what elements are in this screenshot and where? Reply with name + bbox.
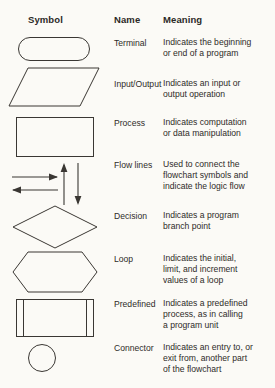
row-name-label: Decision: [114, 211, 162, 221]
symbol-cell-decision: [0, 203, 112, 249]
header-label-meaning: Meaning: [163, 14, 273, 25]
connector-circle-symbol-icon: [28, 344, 56, 372]
meaning-line: process, as in calling: [163, 309, 273, 320]
symbol-cell-process: [0, 113, 112, 161]
name-cell-loop: Loop: [114, 254, 162, 264]
symbol-cell-predefined: [0, 296, 112, 341]
row-name-label: Predefined: [114, 299, 162, 309]
symbol-cell-connector: [0, 341, 112, 386]
row-name-label: Loop: [114, 254, 162, 264]
meaning-line: Indicates an input or: [163, 78, 273, 89]
meaning-cell-loop: Indicates the initial, limit, and increm…: [163, 253, 273, 286]
symbol-cell-input-output: [0, 64, 112, 112]
name-cell-input-output: Input/Output: [114, 79, 162, 89]
row-name-label: Input/Output: [114, 79, 162, 89]
meaning-cell-connector: Indicates an entry to, or exit from, ano…: [163, 342, 273, 375]
name-cell-flow-lines: Flow lines: [114, 160, 162, 170]
meaning-line: Indicates a program: [163, 210, 273, 221]
predefined-process-symbol-icon: [16, 299, 94, 337]
header-cell-symbol: Symbol: [0, 14, 112, 30]
predefined-right-bar: [86, 300, 87, 336]
meaning-cell-decision: Indicates a program branch point: [163, 210, 273, 232]
meaning-cell-predefined: Indicates a predefined process, as in ca…: [163, 298, 273, 331]
row-name-label: Terminal: [114, 38, 162, 48]
meaning-line: exit from, another part: [163, 353, 273, 364]
table-row: Input/Output Indicates an input or outpu…: [0, 64, 275, 112]
table-row: Predefined Indicates a predefined proces…: [0, 296, 275, 341]
name-cell-predefined: Predefined: [114, 299, 162, 309]
table-row: Process Indicates computation or data ma…: [0, 113, 275, 161]
meaning-line: limit, and increment: [163, 264, 273, 275]
meaning-line: branch point: [163, 221, 273, 232]
meaning-line: of the flowchart: [163, 364, 273, 375]
predefined-left-bar: [23, 300, 24, 336]
process-rectangle-symbol-icon: [16, 117, 94, 157]
parallelogram-symbol-icon: [8, 67, 100, 107]
meaning-cell-process: Indicates computation or data manipulati…: [163, 117, 273, 139]
meaning-line: Indicates computation: [163, 117, 273, 128]
meaning-line: Indicates a predefined: [163, 298, 273, 309]
name-cell-process: Process: [114, 118, 162, 128]
meaning-line: Indicates the initial,: [163, 253, 273, 264]
table-header-row: Symbol Name Meaning: [0, 14, 275, 30]
name-cell-terminal: Terminal: [114, 38, 162, 48]
symbol-cell-terminal: [0, 32, 112, 68]
meaning-line: values of a loop: [163, 275, 273, 286]
decision-diamond-symbol-icon: [12, 205, 98, 249]
meaning-line: or data manipulation: [163, 128, 273, 139]
meaning-cell-terminal: Indicates the beginning or end of a prog…: [163, 37, 273, 59]
meaning-cell-flow-lines: Used to connect the flowchart symbols an…: [163, 159, 273, 192]
meaning-line: a program unit: [163, 320, 273, 331]
table-row: Loop Indicates the initial, limit, and i…: [0, 248, 275, 296]
header-cell-name: Name: [114, 14, 162, 25]
header-label-name: Name: [114, 14, 162, 25]
meaning-line: flowchart symbols and: [163, 170, 273, 181]
meaning-line: output operation: [163, 89, 273, 100]
meaning-line: Used to connect the: [163, 159, 273, 170]
loop-hexagon-symbol-icon: [12, 251, 98, 293]
name-cell-connector: Connector: [114, 343, 162, 353]
symbol-cell-loop: [0, 248, 112, 296]
flowchart-symbols-table: Symbol Name Meaning Terminal Indicates t…: [0, 0, 275, 388]
meaning-line: indicate the logic flow: [163, 181, 273, 192]
row-name-label: Connector: [114, 343, 162, 353]
terminal-symbol-icon: [18, 37, 90, 61]
meaning-cell-input-output: Indicates an input or output operation: [163, 78, 273, 100]
row-name-label: Flow lines: [114, 160, 162, 170]
meaning-line: or end of a program: [163, 48, 273, 59]
table-row: Terminal Indicates the beginning or end …: [0, 32, 275, 68]
header-label-symbol: Symbol: [28, 14, 63, 25]
name-cell-decision: Decision: [114, 211, 162, 221]
meaning-line: Indicates an entry to, or: [163, 342, 273, 353]
meaning-line: Indicates the beginning: [163, 37, 273, 48]
row-name-label: Process: [114, 118, 162, 128]
header-cell-meaning: Meaning: [163, 14, 273, 25]
table-row: Connector Indicates an entry to, or exit…: [0, 341, 275, 386]
table-row: Decision Indicates a program branch poin…: [0, 203, 275, 249]
